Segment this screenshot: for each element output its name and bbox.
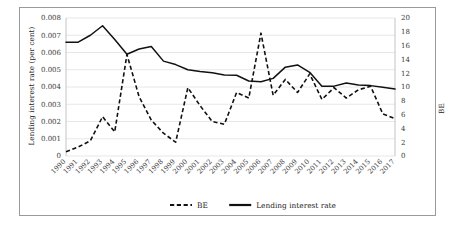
svg-text:0: 0 [401,152,405,160]
svg-text:0.005: 0.005 [41,66,61,74]
svg-text:0.004: 0.004 [41,83,62,91]
series-be [66,33,395,152]
chart-legend: BELending interest rate [170,201,336,210]
legend-label-lending-interest-rate: Lending interest rate [256,201,336,210]
svg-text:14: 14 [401,56,410,64]
svg-text:16: 16 [401,42,410,50]
legend-label-be: BE [197,201,208,210]
svg-text:0.006: 0.006 [41,49,62,57]
y-axis-left-ticks: 00.0010.0020.0030.0040.0050.0060.0070.00… [41,14,62,160]
svg-text:6: 6 [401,111,406,119]
y-axis-right-title: BE [437,89,446,129]
svg-text:8: 8 [401,97,405,105]
y-axis-right-ticks: 02468101214161820 [401,14,410,160]
svg-text:20: 20 [401,14,410,22]
svg-text:0.007: 0.007 [41,32,61,40]
svg-text:0.008: 0.008 [41,14,61,22]
data-series-layer [66,26,395,152]
svg-text:0.002: 0.002 [41,118,61,126]
svg-text:2: 2 [401,139,405,147]
svg-text:18: 18 [401,28,410,36]
x-axis-ticks: 1990199119921993199419951996199719981999… [50,158,397,176]
chart-plot: 00.0010.0020.0030.0040.0050.0060.0070.00… [20,8,435,215]
chart-frame: Lending interest rate (per cent) BE 00.0… [19,7,436,216]
svg-text:0.001: 0.001 [41,135,61,143]
svg-text:0.003: 0.003 [41,101,61,109]
chart-figure: Lending interest rate (per cent) BE 00.0… [0,0,455,235]
svg-text:10: 10 [401,83,410,91]
svg-text:4: 4 [401,125,406,133]
gridlines [66,18,395,156]
svg-text:12: 12 [401,70,410,78]
